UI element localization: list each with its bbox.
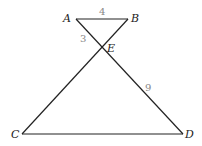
point-label-b: B <box>130 12 139 25</box>
length-label-ed: 9 <box>145 82 151 93</box>
point-label-e: E <box>106 42 115 55</box>
point-label-d: D <box>184 128 194 141</box>
segment-bc <box>22 19 128 134</box>
length-label-ab: 4 <box>99 6 105 17</box>
length-label-ae: 3 <box>80 33 86 44</box>
point-label-a: A <box>62 12 71 25</box>
geometry-diagram: A B E C D 4 3 9 <box>0 0 202 146</box>
point-label-c: C <box>11 128 20 141</box>
segment-ad <box>76 19 183 134</box>
